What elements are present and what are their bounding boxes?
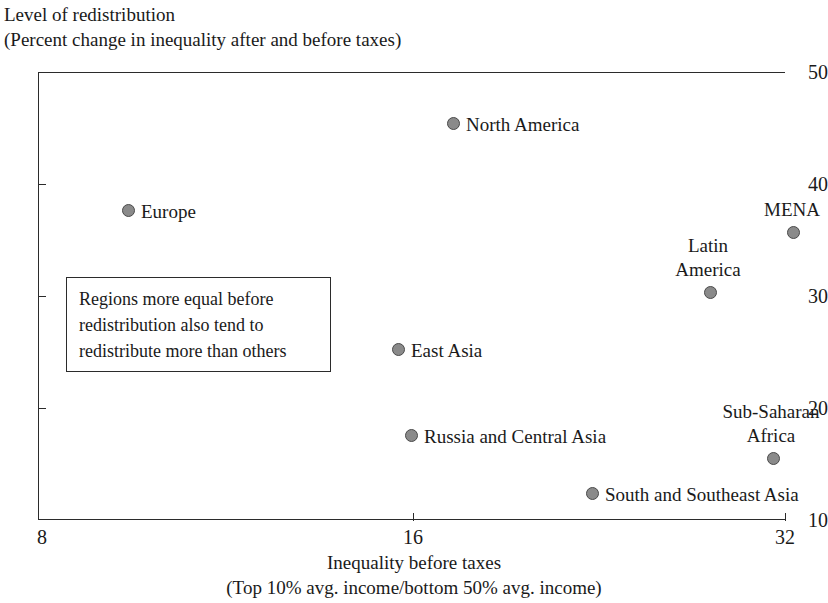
x-tick-mark-32 (785, 513, 786, 521)
data-label-mena: MENA (764, 198, 820, 221)
y-tick-mark-20 (38, 408, 46, 409)
annotation-line-2: redistribution also tend to (79, 312, 330, 338)
data-label-south-southeast-asia: South and Southeast Asia (605, 483, 799, 506)
data-label-europe: Europe (141, 200, 196, 223)
y-tick-label-50: 50 (794, 62, 828, 82)
data-label-latin-america-line2: America (675, 258, 740, 281)
data-label-russia-central-asia: Russia and Central Asia (424, 425, 606, 448)
x-tick-label-8: 8 (37, 527, 47, 547)
data-label-east-asia: East Asia (411, 339, 482, 362)
data-point-east-asia[interactable] (392, 343, 405, 356)
data-label-north-america: North America (466, 113, 579, 136)
x-axis-title-line1: Inequality before taxes (0, 550, 828, 575)
annotation-line-3: redistribute more than others (79, 338, 330, 364)
x-tick-label-16: 16 (403, 527, 423, 547)
data-point-south-southeast-asia[interactable] (586, 487, 599, 500)
x-tick-label-32: 32 (775, 527, 795, 547)
x-axis-title-line2: (Top 10% avg. income/bottom 50% avg. inc… (0, 575, 828, 600)
y-tick-label-10: 10 (794, 510, 828, 530)
annotation-line-1: Regions more equal before (79, 286, 330, 312)
annotation-box: Regions more equal before redistribution… (66, 277, 331, 372)
y-axis-title-line1: Level of redistribution (4, 2, 175, 27)
data-label-subsaharan-africa-line1: Sub-Saharan (722, 400, 819, 423)
data-point-europe[interactable] (122, 204, 135, 217)
y-tick-label-30: 30 (794, 286, 828, 306)
x-tick-mark-16 (413, 513, 414, 521)
data-point-russia-central-asia[interactable] (405, 429, 418, 442)
data-label-latin-america-line1: Latin (688, 234, 728, 257)
data-point-north-america[interactable] (447, 117, 460, 130)
y-tick-label-40: 40 (794, 174, 828, 194)
data-point-latin-america[interactable] (704, 286, 717, 299)
data-point-mena[interactable] (787, 226, 800, 239)
scatter-chart-figure: Level of redistribution (Percent change … (0, 0, 828, 603)
y-tick-mark-40 (38, 184, 46, 185)
data-point-subsaharan-africa[interactable] (767, 452, 780, 465)
y-tick-mark-30 (38, 296, 46, 297)
data-label-subsaharan-africa-line2: Africa (747, 424, 796, 447)
y-axis-title-line2: (Percent change in inequality after and … (4, 27, 401, 52)
